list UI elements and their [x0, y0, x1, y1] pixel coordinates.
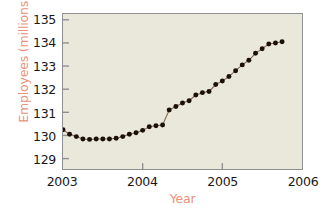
y-tick-label: 129 — [33, 152, 56, 167]
x-axis-title: Year — [62, 191, 303, 206]
employment-line-chart: 129130131132133134135 Employees (million… — [0, 0, 330, 212]
data-point-marker — [207, 89, 212, 94]
data-point-marker — [220, 79, 225, 84]
y-tick-label: 133 — [33, 58, 56, 73]
data-point-marker — [147, 124, 152, 129]
data-point-marker — [253, 51, 258, 56]
data-point-marker — [273, 40, 278, 45]
x-tick-label: 2003 — [47, 174, 78, 189]
data-point-marker — [120, 134, 125, 139]
data-point-marker — [94, 136, 99, 141]
data-point-marker — [193, 93, 198, 98]
data-point-marker — [233, 68, 238, 73]
data-point-marker — [200, 90, 205, 95]
data-point-marker — [100, 136, 105, 141]
y-axis-title: Employees (millions) — [16, 0, 31, 130]
x-tick-label: 2005 — [207, 174, 238, 189]
x-tick-label: 2004 — [127, 174, 158, 189]
data-point-marker — [107, 136, 112, 141]
data-point-marker — [74, 134, 79, 139]
plot-area — [62, 13, 303, 170]
data-point-marker — [127, 132, 132, 137]
data-point-marker — [173, 104, 178, 109]
data-point-marker — [80, 136, 85, 141]
y-tick-label: 130 — [33, 129, 56, 144]
plot-svg — [63, 14, 302, 169]
y-tick-label: 132 — [33, 82, 56, 97]
data-point-marker — [213, 82, 218, 87]
y-tick-label: 134 — [33, 35, 56, 50]
data-point-marker — [187, 98, 192, 103]
data-point-marker — [140, 128, 145, 133]
data-point-marker — [153, 123, 158, 128]
data-point-marker — [280, 39, 285, 44]
x-tick-label: 2006 — [288, 174, 319, 189]
y-tick-label: 135 — [33, 11, 56, 26]
data-point-marker — [67, 132, 72, 137]
data-point-marker — [260, 46, 265, 51]
y-tick-label: 131 — [33, 105, 56, 120]
data-point-marker — [180, 101, 185, 106]
data-point-marker — [167, 108, 172, 113]
data-point-marker — [240, 62, 245, 67]
data-point-marker — [134, 130, 139, 135]
data-point-marker — [87, 137, 92, 142]
data-point-marker — [114, 136, 119, 141]
series-line — [63, 42, 282, 140]
data-point-marker — [246, 58, 251, 63]
data-point-marker — [266, 42, 271, 47]
data-point-marker — [226, 74, 231, 79]
data-point-marker — [160, 123, 165, 128]
